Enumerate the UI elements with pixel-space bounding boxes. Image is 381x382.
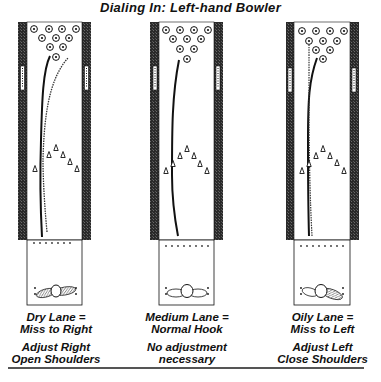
caption-oily: Oily Lane = Miss to Left Adjust Left Clo… — [265, 311, 380, 365]
advice-line: Adjust Left — [265, 341, 380, 353]
advice-line: Open Shoulders — [2, 353, 110, 365]
left-gutter — [150, 22, 159, 240]
right-gutter — [350, 22, 359, 240]
right-gutter — [214, 22, 223, 240]
caption-dry: Dry Lane = Miss to Right Adjust Right Op… — [2, 311, 110, 365]
caption-medium: Medium Lane = Normal Hook No adjustment … — [132, 311, 242, 365]
advice-line: Adjust Right — [2, 341, 110, 353]
bottom-divider — [8, 367, 364, 369]
left-gutter — [286, 22, 294, 240]
lane-dry — [18, 22, 91, 305]
condition-result: Normal Hook — [132, 323, 242, 335]
condition-result: Miss to Left — [265, 323, 380, 335]
advice-line: No adjustment — [132, 341, 242, 353]
lane-medium — [150, 22, 223, 305]
advice-line: necessary — [132, 353, 242, 365]
condition-label: Oily Lane = — [265, 311, 380, 323]
condition-label: Dry Lane = — [2, 311, 110, 323]
left-gutter — [18, 22, 27, 240]
condition-label: Medium Lane = — [132, 311, 242, 323]
right-gutter — [82, 22, 91, 240]
advice-line: Close Shoulders — [265, 353, 380, 365]
condition-result: Miss to Right — [2, 323, 110, 335]
lane-oily — [286, 22, 359, 305]
